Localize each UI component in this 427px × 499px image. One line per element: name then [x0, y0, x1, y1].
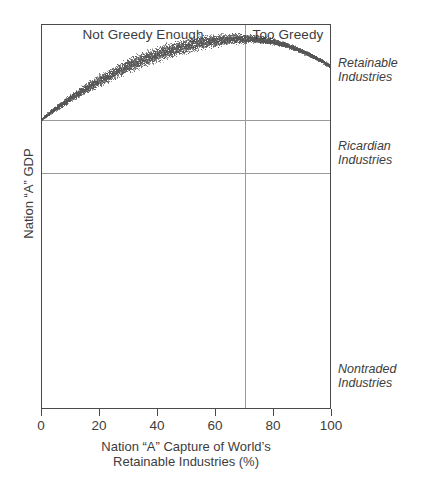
x-axis-tick: [41, 409, 42, 416]
x-axis-tick: [273, 409, 274, 416]
side-label-retainable-line2: Industries: [338, 71, 398, 85]
x-axis-tick-labels: 020406080100: [0, 418, 427, 436]
side-label-retainable-industries: Retainable Industries: [338, 57, 398, 84]
x-axis-tick-marks: [41, 409, 331, 416]
gridline-ricardian-boundary: [42, 173, 330, 174]
plot-area: [41, 24, 331, 409]
y-axis-title: Nation “A” GDP: [21, 134, 36, 254]
x-axis-tick-label: 0: [37, 418, 45, 433]
side-label-ricardian-line2: Industries: [338, 154, 392, 168]
gridline-greed-threshold: [245, 25, 246, 408]
x-axis-tick-label: 40: [149, 418, 164, 433]
side-label-ricardian-line1: Ricardian: [338, 140, 392, 154]
x-axis-tick: [331, 409, 332, 416]
x-axis-tick: [157, 409, 158, 416]
chart-figure: Not Greedy Enough Too Greedy Retainable …: [0, 0, 427, 499]
x-axis-tick-label: 20: [91, 418, 106, 433]
x-axis-tick-label: 80: [265, 418, 280, 433]
side-label-nontraded-line2: Industries: [338, 377, 396, 391]
x-axis-tick-label: 100: [320, 418, 343, 433]
side-label-ricardian-industries: Ricardian Industries: [338, 140, 392, 167]
x-axis-tick: [99, 409, 100, 416]
region-label-too-greedy: Too Greedy: [245, 27, 331, 42]
region-label-not-greedy-enough: Not Greedy Enough: [41, 27, 245, 42]
x-axis-title: Nation “A” Capture of World’s Retainable…: [41, 440, 331, 469]
gridline-retainable-boundary: [42, 120, 330, 121]
x-axis-tick-label: 60: [207, 418, 222, 433]
side-label-retainable-line1: Retainable: [338, 57, 398, 71]
x-axis-title-line2: Retainable Industries (%): [41, 455, 331, 470]
side-label-nontraded-industries: Nontraded Industries: [338, 363, 396, 390]
x-axis-tick: [215, 409, 216, 416]
side-label-nontraded-line1: Nontraded: [338, 363, 396, 377]
x-axis-title-line1: Nation “A” Capture of World’s: [101, 439, 270, 454]
